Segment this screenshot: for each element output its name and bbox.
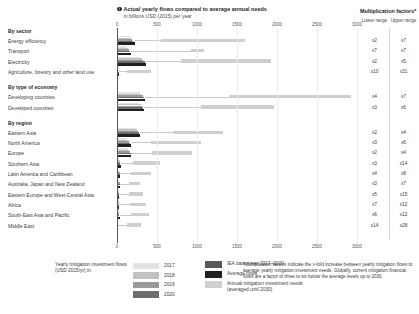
multiplication-row: x3x6 bbox=[360, 105, 418, 110]
multiplication-row: x5x15 bbox=[360, 192, 418, 197]
upper-range-value: x6 bbox=[389, 140, 418, 145]
lower-range-value: x10 bbox=[360, 69, 389, 74]
x-tick-label: 1500 bbox=[232, 244, 242, 249]
x-tick-label: 2500 bbox=[312, 22, 322, 27]
multiplication-row: x4x7 bbox=[360, 94, 418, 99]
legend-year-item: 2017 bbox=[133, 261, 175, 271]
multiplication-subheaders: Lower range Upper range bbox=[360, 18, 418, 23]
row-label: Energy efficiency bbox=[8, 38, 46, 44]
row-label: Eastern Asia bbox=[8, 130, 36, 136]
multiplication-row: x2x4 bbox=[360, 150, 418, 155]
chart-header: i Actual yearly flows compared to averag… bbox=[117, 6, 347, 20]
connector-line bbox=[120, 215, 131, 216]
upper-range-value: x4 bbox=[389, 130, 418, 135]
legend-year-label: 2019 bbox=[164, 282, 175, 287]
connector-line bbox=[120, 184, 129, 185]
footnote: *Multiplication factors indicate the x-f… bbox=[243, 262, 415, 280]
upper-range-value: x12 bbox=[389, 212, 418, 217]
connector-line bbox=[120, 173, 131, 174]
row-label: Electricity bbox=[8, 59, 29, 65]
legend-year-swatches: 2017201820192020 bbox=[133, 261, 175, 299]
x-tick-label: 1500 bbox=[232, 22, 242, 27]
chart-root: i Actual yearly flows compared to averag… bbox=[0, 0, 419, 314]
legend-divider bbox=[130, 262, 131, 301]
legend-swatch bbox=[205, 281, 222, 288]
needs-bar bbox=[130, 203, 146, 206]
mean-bar bbox=[117, 155, 131, 158]
legend-series-item: Annual mitigation investment needs (aver… bbox=[205, 281, 310, 293]
row-label: Latin America and Caribbean bbox=[8, 171, 73, 177]
chart-subtitle: in billions USD (2015) per year bbox=[124, 13, 347, 20]
lower-range-value: x5 bbox=[360, 192, 389, 197]
gridline bbox=[157, 28, 158, 243]
multiplication-row: x3x7 bbox=[360, 181, 418, 186]
info-icon: i bbox=[117, 7, 122, 12]
row-label: Europe bbox=[8, 150, 24, 156]
upper-range-value: x7 bbox=[389, 38, 418, 43]
category-labels: By sectorEnergy efficiencyTransportElect… bbox=[0, 28, 115, 243]
multiplication-row: x10x31 bbox=[360, 69, 418, 74]
connector-line bbox=[144, 107, 201, 108]
connector-line bbox=[119, 204, 129, 205]
x-tick-label: 2500 bbox=[312, 244, 322, 249]
legend-year-item: 2018 bbox=[133, 271, 175, 281]
legend-year-label: 2018 bbox=[164, 273, 175, 278]
gridline bbox=[317, 28, 318, 243]
page-title: Actual yearly flows compared to average … bbox=[124, 6, 267, 13]
mean-bar bbox=[117, 109, 144, 112]
upper-range-value: x31 bbox=[389, 69, 418, 74]
row-label: Eastern Europe and West-Central Asia bbox=[8, 192, 94, 198]
multiplication-row: x2x4 bbox=[360, 130, 418, 135]
upper-range-value: x5 bbox=[389, 59, 418, 64]
lower-range-value: x14 bbox=[360, 223, 389, 228]
needs-bar bbox=[229, 95, 351, 98]
upper-range-value: x15 bbox=[389, 192, 418, 197]
upper-range-value: x6 bbox=[389, 105, 418, 110]
group-label: By type of economy bbox=[8, 84, 57, 90]
row-label: Transport bbox=[8, 48, 29, 54]
lower-range-value: x3 bbox=[360, 140, 389, 145]
connector-line bbox=[119, 194, 129, 195]
x-tick-label: 3000 bbox=[352, 244, 362, 249]
upper-range-value: x8 bbox=[389, 171, 418, 176]
needs-bar bbox=[129, 192, 143, 195]
needs-bar bbox=[151, 141, 201, 144]
upper-range-value: x12 bbox=[389, 202, 418, 207]
multiplication-values: x2x7x7x7x2x5x10x31x4x7x3x6x2x4x3x6x2x4x3… bbox=[360, 28, 418, 243]
multiplication-row: x6x12 bbox=[360, 212, 418, 217]
gridline bbox=[277, 28, 278, 243]
upper-range-header: Upper range bbox=[389, 18, 418, 23]
lower-range-value: x7 bbox=[360, 48, 389, 53]
upper-range-value: x7 bbox=[389, 94, 418, 99]
lower-range-value: x2 bbox=[360, 38, 389, 43]
row-label: Middle East bbox=[8, 223, 34, 229]
upper-range-value: x28 bbox=[389, 223, 418, 228]
multiplication-row: x7x12 bbox=[360, 202, 418, 207]
upper-range-value: x7 bbox=[389, 48, 418, 53]
connector-line bbox=[118, 225, 127, 226]
x-tick-label: 0 bbox=[116, 22, 119, 27]
mean-bar bbox=[117, 134, 140, 137]
group-label: By region bbox=[8, 120, 32, 126]
connector-line bbox=[131, 51, 191, 52]
row-label: South-East Asia and Pacific bbox=[8, 212, 69, 218]
connector-line bbox=[131, 153, 152, 154]
x-tick-label: 0 bbox=[116, 244, 119, 249]
legend-swatch bbox=[133, 263, 159, 269]
x-tick-label: 2000 bbox=[272, 22, 282, 27]
multiplication-row: x2x5 bbox=[360, 59, 418, 64]
lower-range-value: x2 bbox=[360, 130, 389, 135]
row-label: Developed countries bbox=[8, 105, 54, 111]
lower-range-value: x2 bbox=[360, 59, 389, 64]
legend-year-item: 2019 bbox=[133, 280, 175, 290]
legend-year-label: 2017 bbox=[164, 263, 175, 268]
needs-bar bbox=[129, 182, 140, 185]
upper-range-value: x7 bbox=[389, 181, 418, 186]
gridline bbox=[117, 28, 118, 243]
legend-swatch bbox=[133, 291, 159, 297]
plot-area bbox=[117, 28, 357, 243]
lower-range-value: x7 bbox=[360, 202, 389, 207]
multiplication-title: Multiplication factors* bbox=[360, 8, 418, 14]
legend-swatch bbox=[133, 272, 159, 278]
row-label: Southern Asia bbox=[8, 161, 39, 167]
